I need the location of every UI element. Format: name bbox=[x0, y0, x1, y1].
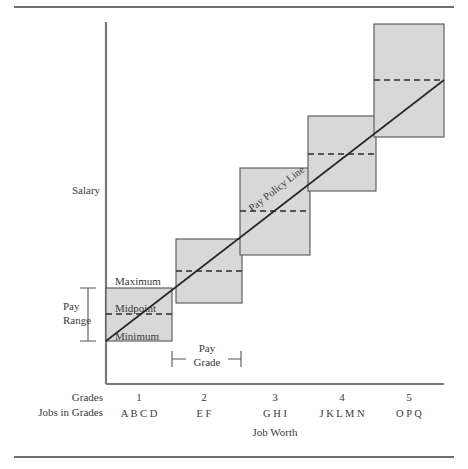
pay-structure-diagram: Salary Pay Range Pay Grade Maximum Midpo… bbox=[0, 0, 468, 469]
pay-range-label-line1: Pay bbox=[63, 300, 80, 312]
row-label-grades: Grades bbox=[72, 391, 103, 403]
pay-policy-line bbox=[106, 80, 444, 341]
grade-number-1: 1 bbox=[136, 391, 142, 403]
pay-grade-label-line1: Pay bbox=[199, 342, 216, 354]
jobs-in-grade-3: G H I bbox=[263, 408, 287, 419]
grade-number-4: 4 bbox=[339, 391, 345, 403]
grade-number-5: 5 bbox=[406, 391, 412, 403]
grade-number-2: 2 bbox=[201, 391, 207, 403]
figure-container: Salary Pay Range Pay Grade Maximum Midpo… bbox=[0, 0, 468, 469]
row-label-jobs-in-grades: Jobs in Grades bbox=[38, 406, 103, 418]
y-axis-label: Salary bbox=[72, 184, 101, 196]
pay-grade-label-line2: Grade bbox=[194, 356, 221, 368]
x-axis-label: Job Worth bbox=[252, 426, 298, 438]
jobs-in-grade-1: A B C D bbox=[121, 408, 158, 419]
midpoint-label: Midpoint bbox=[115, 302, 156, 314]
pay-range-label-line2: Range bbox=[63, 314, 91, 326]
jobs-in-grade-4: J K L M N bbox=[319, 408, 365, 419]
jobs-in-grade-5: O P Q bbox=[396, 408, 422, 419]
minimum-label: Minimum bbox=[115, 330, 159, 342]
jobs-in-grade-2: E F bbox=[197, 408, 212, 419]
grade-number-3: 3 bbox=[272, 391, 278, 403]
maximum-label: Maximum bbox=[115, 275, 161, 287]
